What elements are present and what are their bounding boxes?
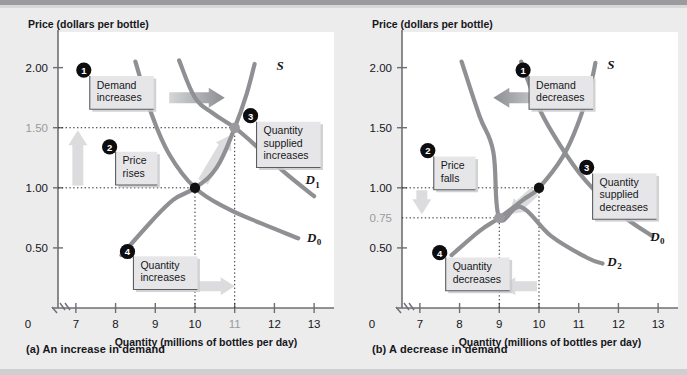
chart-a: Price (dollars per bottle)0.501.001.502.…: [0, 8, 343, 348]
annotation-text: Quantity: [600, 176, 640, 188]
bottom-rule: [0, 369, 687, 375]
panel-decrease-in-demand: Price (dollars per bottle)0.501.001.502.…: [344, 8, 687, 369]
annotation-number: 2: [425, 145, 430, 156]
x-tick-label: 9: [152, 318, 158, 330]
x-tick-label: 7: [417, 318, 423, 330]
annotation-text: Quantity: [453, 260, 493, 272]
y-tick-label: 2.00: [26, 62, 48, 74]
figure-supply-demand-shifts: Price (dollars per bottle)0.501.001.502.…: [0, 0, 687, 375]
annotation-text: Demand: [97, 79, 137, 91]
x-tick-label: 8: [456, 318, 462, 330]
x-tick-label: 12: [268, 318, 281, 330]
x-tick-label: 9: [496, 318, 502, 330]
annotation-text: Price: [123, 154, 147, 166]
equilibrium-dot-new: [494, 213, 504, 223]
y-tick-label: 1.00: [370, 182, 392, 194]
annotation-text: decreases: [453, 273, 501, 285]
annotation-number: 2: [107, 142, 112, 153]
annotation-text: increases: [264, 149, 309, 161]
x-tick-label: 11: [229, 318, 241, 330]
curve-label-S: S: [607, 57, 614, 72]
y-axis-title: Price (dollars per bottle): [372, 18, 493, 30]
annotation-text: Quantity: [140, 259, 180, 271]
annotation-number: 3: [248, 111, 253, 122]
annotation-text: Quantity: [264, 124, 304, 136]
annotation-number: 1: [520, 65, 526, 76]
annotation-text: rises: [123, 167, 145, 179]
y-tick-label: 1.00: [26, 182, 48, 194]
y-axis-title: Price (dollars per bottle): [28, 18, 149, 30]
annotation-text: increases: [140, 271, 185, 283]
x-tick-label: 13: [308, 318, 321, 330]
chart-b: Price (dollars per bottle)0.501.001.502.…: [344, 8, 687, 348]
x-tick-label: 11: [573, 318, 585, 330]
annotation-text: falls: [441, 172, 460, 184]
y-tick-label: 1.50: [26, 122, 48, 134]
x-origin-label: 0: [25, 318, 31, 330]
annotation-number: 4: [437, 248, 443, 259]
y-tick-label: 0.50: [370, 242, 392, 254]
annotation-number: 1: [81, 65, 87, 76]
annotation-number: 3: [584, 162, 589, 173]
y-tick-label-extra: 0.75: [370, 212, 392, 224]
panel-b-caption: (b) A decrease in demand: [372, 343, 507, 355]
x-tick-label: 12: [612, 318, 625, 330]
equilibrium-dot-initial: [190, 183, 200, 193]
annotation-text: decreases: [600, 201, 648, 213]
y-tick-label: 1.50: [370, 122, 392, 134]
x-tick-label: 8: [112, 318, 118, 330]
equilibrium-dot-initial: [534, 183, 544, 193]
annotation-text: Price: [441, 159, 465, 171]
annotation-text: supplied: [264, 137, 303, 149]
panel-a-caption: (a) An increase in demand: [26, 343, 165, 355]
x-tick-label: 10: [189, 318, 202, 330]
annotation-text: increases: [97, 91, 142, 103]
panel-increase-in-demand: Price (dollars per bottle)0.501.001.502.…: [0, 8, 343, 369]
annotation-text: supplied: [600, 188, 639, 200]
annotation-text: decreases: [536, 91, 584, 103]
curve-label-S: S: [276, 58, 283, 73]
annotation-number: 4: [125, 246, 131, 257]
x-tick-label: 10: [533, 318, 546, 330]
annotation-text: Demand: [536, 79, 576, 91]
x-tick-label: 13: [652, 318, 665, 330]
y-tick-label: 2.00: [370, 62, 392, 74]
y-tick-label: 0.50: [26, 242, 48, 254]
x-origin-label: 0: [369, 318, 375, 330]
equilibrium-dot-new: [230, 123, 240, 133]
x-tick-label: 7: [73, 318, 79, 330]
